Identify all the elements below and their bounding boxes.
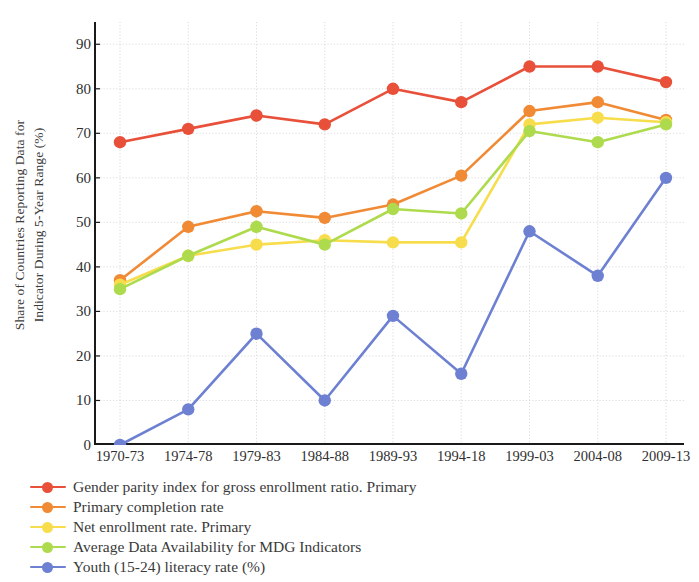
legend-label: Primary completion rate	[73, 497, 224, 517]
y-axis-tick-label: 70	[61, 125, 91, 142]
data-point	[455, 96, 467, 108]
legend-label: Average Data Availability for MDG Indica…	[73, 537, 361, 557]
data-point	[592, 270, 604, 282]
data-point	[660, 76, 672, 88]
data-point	[523, 60, 535, 72]
x-axis-tick-labels: 1970-731974-781979-831984-881989-931994-…	[94, 448, 684, 472]
data-point	[250, 327, 262, 339]
y-axis-tick-label: 60	[61, 169, 91, 186]
data-point	[592, 96, 604, 108]
data-point	[387, 203, 399, 215]
data-point	[250, 221, 262, 233]
data-point	[592, 112, 604, 124]
legend-swatch-icon	[30, 540, 66, 554]
data-point	[523, 125, 535, 137]
data-point	[250, 109, 262, 121]
y-axis-tick-label: 50	[61, 214, 91, 231]
legend-marker-dot-icon	[42, 482, 53, 493]
data-point	[387, 83, 399, 95]
data-point	[455, 207, 467, 219]
legend-swatch-icon	[30, 500, 66, 514]
x-axis-tick-label: 1974-78	[164, 448, 212, 465]
legend-item[interactable]: Primary completion rate	[30, 497, 690, 517]
x-axis-tick-label: 2009-13	[642, 448, 690, 465]
data-point	[387, 236, 399, 248]
data-point	[114, 136, 126, 148]
legend-item[interactable]: Youth (15-24) literacy rate (%)	[30, 557, 690, 577]
chart-figure: Share of Countries Reporting Data for In…	[0, 0, 699, 582]
data-point	[455, 236, 467, 248]
line-chart-svg	[94, 22, 684, 445]
data-point	[319, 118, 331, 130]
y-axis-tick-label: 10	[61, 392, 91, 409]
plot-area	[94, 22, 684, 445]
data-point	[592, 136, 604, 148]
data-point	[114, 439, 126, 445]
data-point	[182, 123, 194, 135]
y-axis-tick-label: 30	[61, 303, 91, 320]
y-axis-tick-label: 80	[61, 80, 91, 97]
data-point	[182, 250, 194, 262]
x-axis-tick-label: 1999-03	[505, 448, 553, 465]
data-point	[182, 221, 194, 233]
data-point	[319, 394, 331, 406]
y-axis-title-line-2: Indicator During 5-Year Range (%)	[29, 120, 48, 330]
y-axis-tick-label: 90	[61, 36, 91, 53]
legend-swatch-icon	[30, 480, 66, 494]
legend-label: Gender parity index for gross enrollment…	[73, 477, 417, 497]
data-point	[523, 105, 535, 117]
legend-item[interactable]: Gender parity index for gross enrollment…	[30, 477, 690, 497]
legend-marker-dot-icon	[42, 562, 53, 573]
legend-item[interactable]: Average Data Availability for MDG Indica…	[30, 537, 690, 557]
data-point	[250, 238, 262, 250]
data-point	[114, 283, 126, 295]
data-point	[319, 212, 331, 224]
data-point	[319, 238, 331, 250]
y-axis-title-line-1: Share of Countries Reporting Data for	[12, 120, 27, 330]
legend-swatch-icon	[30, 520, 66, 534]
data-point	[455, 169, 467, 181]
data-point	[523, 225, 535, 237]
x-axis-tick-label: 1994-18	[437, 448, 485, 465]
y-axis-title: Share of Countries Reporting Data for In…	[0, 0, 58, 450]
y-axis-tick-label: 0	[61, 437, 91, 454]
data-point	[182, 403, 194, 415]
data-point	[455, 368, 467, 380]
legend-marker-dot-icon	[42, 522, 53, 533]
legend-marker-dot-icon	[42, 542, 53, 553]
x-axis-tick-label: 1979-83	[232, 448, 280, 465]
chart-legend: Gender parity index for gross enrollment…	[30, 477, 690, 577]
legend-marker-dot-icon	[42, 502, 53, 513]
x-axis-tick-label: 1970-73	[96, 448, 144, 465]
data-point	[250, 205, 262, 217]
data-point	[660, 118, 672, 130]
x-axis-tick-label: 1989-93	[369, 448, 417, 465]
data-point	[592, 60, 604, 72]
x-axis-tick-label: 2004-08	[574, 448, 622, 465]
y-axis-tick-label: 20	[61, 347, 91, 364]
legend-label: Youth (15-24) literacy rate (%)	[73, 557, 265, 577]
data-point	[387, 310, 399, 322]
legend-swatch-icon	[30, 560, 66, 574]
y-axis-tick-label: 40	[61, 258, 91, 275]
data-point	[660, 172, 672, 184]
x-axis-tick-label: 1984-88	[301, 448, 349, 465]
y-axis-tick-labels: 0102030405060708090	[55, 22, 91, 445]
legend-item[interactable]: Net enrollment rate. Primary	[30, 517, 690, 537]
legend-label: Net enrollment rate. Primary	[73, 517, 251, 537]
